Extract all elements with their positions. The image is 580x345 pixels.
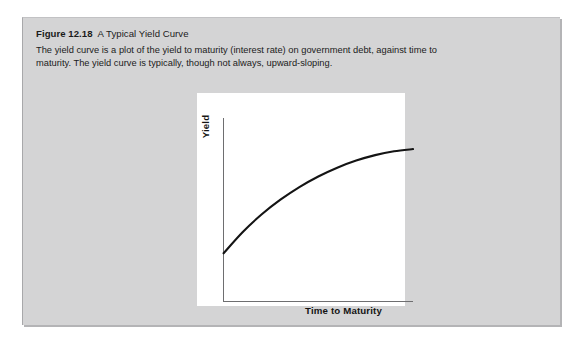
figure-box: Figure 12.18A Typical Yield Curve The yi… bbox=[22, 17, 560, 325]
figure-number: Figure 12.18 bbox=[36, 28, 93, 39]
figure-name: A Typical Yield Curve bbox=[98, 28, 189, 39]
x-axis-label: Time to Maturity bbox=[305, 305, 382, 316]
yield-curve-line bbox=[224, 149, 413, 253]
figure-caption: Figure 12.18A Typical Yield Curve The yi… bbox=[36, 27, 456, 69]
yield-curve-plot bbox=[197, 93, 405, 306]
figure-description: The yield curve is a plot of the yield t… bbox=[36, 44, 441, 69]
chart-panel: Yield Time to Maturity bbox=[197, 93, 405, 306]
figure-title: Figure 12.18A Typical Yield Curve bbox=[36, 27, 456, 40]
